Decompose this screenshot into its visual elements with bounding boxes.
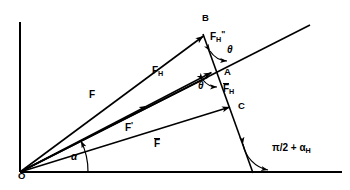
label-angle-alpha: α — [71, 152, 77, 162]
label-pihalf-main: π/2 + α — [272, 142, 306, 153]
label-angle-theta-upper: θ — [227, 45, 233, 55]
angle-arc-theta-lower — [203, 80, 217, 87]
vector-f-prime — [20, 77, 208, 172]
label-point-a: A — [224, 67, 231, 77]
label-vector-f-bar-h: FH — [223, 83, 234, 95]
vector-f — [20, 36, 204, 172]
label-vector-f-h-double-prime: FH" — [210, 30, 225, 43]
label-point-o: O — [18, 171, 25, 181]
diagram-canvas — [0, 0, 350, 190]
label-vector-f-bar-base: F — [154, 138, 160, 149]
label-fh2-mark: " — [221, 29, 225, 39]
angle-arc-alpha — [81, 141, 88, 172]
label-vector-f-prime-mark: ' — [131, 120, 133, 130]
label-fbarh-sub: H — [229, 87, 234, 96]
vector-force-diagram: O B A C F FH F' F FH" FH α θ θ π/2 + αH — [0, 0, 350, 190]
label-angle-theta-lower: θ — [198, 81, 204, 91]
label-point-c: C — [238, 101, 245, 111]
label-pihalf-sub: H — [306, 146, 311, 155]
label-fbarh-base: F — [223, 83, 229, 94]
label-vector-f-bar: F — [154, 138, 160, 149]
label-vector-f-prime: F' — [125, 121, 133, 133]
label-vector-f-h-sub: H — [158, 69, 163, 78]
label-angle-pi-half-alpha-h: π/2 + αH — [272, 143, 311, 154]
label-vector-f-h: FH — [152, 66, 163, 77]
label-point-b: B — [202, 13, 209, 23]
label-vector-f: F — [89, 90, 95, 100]
